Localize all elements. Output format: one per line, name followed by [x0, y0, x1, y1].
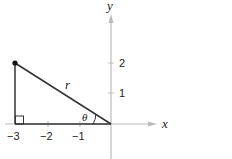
x-axis-label: x — [161, 116, 168, 131]
y-tick-label: 2 — [119, 57, 125, 69]
x-axis-arrow-icon — [148, 122, 157, 127]
hypotenuse — [15, 63, 111, 124]
diagram: y x r θ −3 −2 −1 2 1 — [0, 0, 232, 159]
x-tick-label: −1 — [72, 130, 85, 142]
x-tick-label: −3 — [7, 130, 20, 142]
x-tick-label: −2 — [40, 130, 53, 142]
right-angle-marker — [16, 116, 24, 124]
point-marker — [12, 60, 17, 65]
y-axis-label: y — [105, 0, 113, 13]
y-axis-arrow-icon — [109, 14, 114, 23]
hypotenuse-label: r — [65, 77, 71, 92]
angle-arc — [93, 114, 96, 124]
angle-label: θ — [82, 111, 88, 123]
y-tick-label: 1 — [119, 87, 125, 99]
